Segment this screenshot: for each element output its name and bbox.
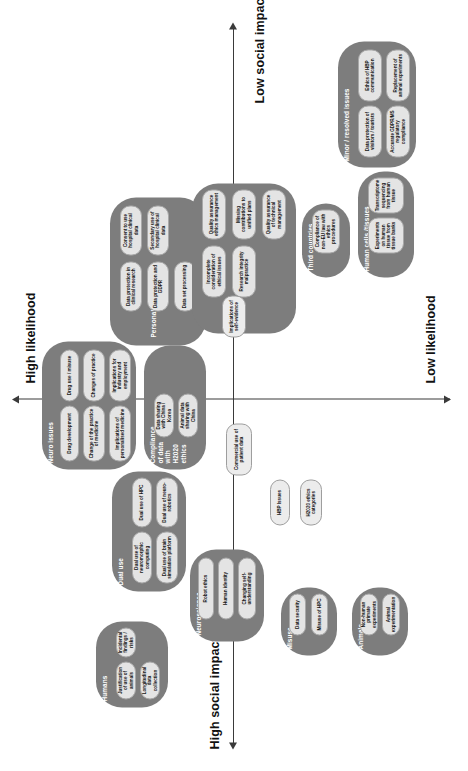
cluster-title: Neuro issues <box>47 422 54 463</box>
pill-item[interactable]: Drug development <box>60 405 79 461</box>
pill-item[interactable]: Drug use / misuse <box>60 349 79 401</box>
pill-item[interactable]: Data sharing with China / Korea <box>154 393 174 437</box>
cluster-neuro-issues[interactable]: Neuro issues Drug development Drug use /… <box>42 341 136 469</box>
pill-item[interactable]: Changes of practice <box>83 349 105 401</box>
pill-item[interactable]: Dual use of brain simulation platform <box>156 531 178 583</box>
pill-item[interactable]: Compliance of non-EU law with ethics pro… <box>312 209 340 253</box>
pill-item[interactable]: Misuse of HPC <box>311 593 328 635</box>
cluster-humans-final[interactable]: Humans Justification of use of animals I… <box>96 621 168 707</box>
pill-item[interactable]: Animal data sharing with China <box>178 393 198 437</box>
pill-item[interactable]: Robot ethics <box>198 557 214 619</box>
pill-item[interactable]: Consent to use hospital clinical data <box>120 205 142 255</box>
pill-item[interactable]: Dual use of neuro-robotics <box>156 477 178 527</box>
pill-item[interactable]: Justification of use of animals <box>116 661 136 699</box>
cluster-human-cells-tissues[interactable]: Human cells /tissues Experiments on huma… <box>358 171 414 277</box>
pill-item[interactable]: Research integrity malpractice <box>232 245 256 297</box>
cluster-title: Humans <box>101 675 108 701</box>
cluster-animals[interactable]: Animals Non-human primate experiments An… <box>352 587 408 655</box>
quadrant-canvas: High social impact Low social impact Hig… <box>0 0 468 771</box>
cluster-dual-use[interactable]: Dual use Dual use of neuromorphic comput… <box>112 471 186 591</box>
pill-item[interactable]: Data security <box>289 593 306 635</box>
pill-item[interactable]: Incomplete consideration of ethical issu… <box>202 245 226 297</box>
axis-arrow-right-icon <box>229 22 237 29</box>
pill-item[interactable]: Human identity <box>218 557 234 619</box>
pill-item[interactable]: Quality assurance of technical managemen… <box>262 189 286 239</box>
pill-item[interactable]: Animal experimentation <box>382 593 400 635</box>
axis-arrow-down-icon <box>444 395 451 403</box>
cluster-compliance-h2020[interactable]: Compliance of data with H2020 ethics Dat… <box>144 345 206 469</box>
pill-item[interactable]: Missing contributions to unified plans <box>232 189 256 239</box>
pill-item[interactable]: Data protection of visitors / tourists <box>358 105 382 157</box>
pill-item[interactable]: Dual use of HPC <box>132 477 152 527</box>
pill-item[interactable]: Quality assurance ethics management <box>202 189 226 239</box>
axis-arrow-left-icon <box>229 742 237 749</box>
cluster-misuse[interactable]: Misuse Data security Misuse of HPC <box>281 587 337 655</box>
pill-item[interactable]: Dual use of neuromorphic computing <box>132 531 152 583</box>
cluster-third-countries[interactable]: Third countries Compliance of non-EU law… <box>302 203 350 277</box>
pill-item[interactable]: Data protection and GDPR <box>147 261 169 311</box>
pill-item[interactable]: Experiments on human tissue from tissue … <box>368 217 404 253</box>
axis-label-low-likelihood: Low likelihood <box>424 295 438 383</box>
cluster-title: Dual use <box>117 558 124 585</box>
standalone-item-h2020-ethics-categories[interactable]: H2020 ethics categories <box>300 479 322 525</box>
axis-label-low-social-impact: Low social impact <box>253 0 267 103</box>
cluster-title: Compliance of data with H2020 ethics <box>149 437 187 463</box>
pill-item[interactable]: Data protection in clinical research <box>120 261 142 311</box>
cluster-neuroscience[interactable]: Neuroscience Robot ethics Human identity… <box>190 549 264 641</box>
figure-root: High social impact Low social impact Hig… <box>0 0 468 771</box>
pill-item[interactable]: Non-human primate experiments <box>360 593 378 635</box>
axis-arrow-up-icon <box>12 395 19 403</box>
axis-label-high-social-impact: High social impact <box>208 637 222 749</box>
pill-item[interactable]: Transcriptome sequencing from human tiss… <box>368 177 404 213</box>
standalone-item-commercial-use-patient-data[interactable]: Commercial use of patient data <box>226 423 252 475</box>
standalone-item-implications-self-evidence[interactable]: Implications of self-evidence <box>222 295 246 337</box>
pill-item[interactable]: Changing self-understanding <box>238 557 256 619</box>
pill-item[interactable]: Incidental findings / risks <box>116 627 136 657</box>
pill-item[interactable]: Accurate GDPR/MS regulatory compliance <box>386 105 410 157</box>
pill-item[interactable]: Replacement of animal experiments <box>386 49 410 101</box>
pill-item[interactable]: Secondary use of hospital clinical data <box>147 205 169 255</box>
pill-item[interactable]: Ethics of HBP communication <box>358 49 382 101</box>
cluster-minor-resolved-issues[interactable]: Minor / resolved issues Data protection … <box>338 41 416 167</box>
standalone-item-hbp-issues[interactable]: HBP Issues <box>270 479 290 525</box>
pill-item[interactable]: Longitudinal data collection <box>140 661 160 699</box>
cluster-title: Minor / resolved issues <box>343 88 350 161</box>
pill-item[interactable]: Change of the practice of medicine <box>83 405 105 461</box>
pill-item[interactable]: Implications of personalised medicine <box>109 405 131 461</box>
axis-label-high-likelihood: High likelihood <box>24 292 38 383</box>
pill-item[interactable]: Implications for industry and employment <box>109 349 131 401</box>
